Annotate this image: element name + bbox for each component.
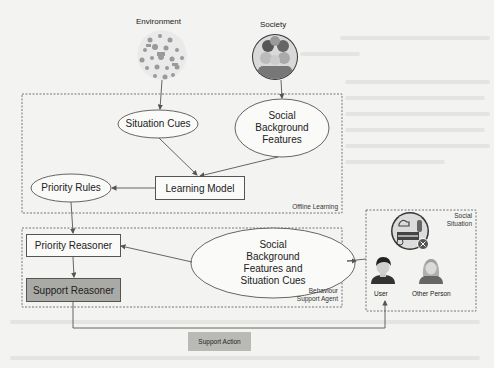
edge-social-background-to-learning-model — [200, 157, 278, 176]
behaviour-support-agent-caption: Behaviour Support Agent — [270, 287, 338, 303]
social-background-line2: Background — [255, 122, 308, 134]
social-features-line4: Situation Cues — [240, 275, 305, 287]
social-features-line2: Background — [246, 251, 299, 263]
social-features-and-cues-label: Social Background Features and Situation… — [205, 236, 341, 290]
edge-social-features-to-priority-reasoner — [121, 246, 192, 262]
edge-situation-cues-to-learning-model — [159, 138, 197, 175]
other-person-label: Other Person — [412, 290, 451, 297]
edge-priority-reasoner-to-support-reasoner — [73, 257, 74, 277]
society-label: Society — [260, 20, 286, 29]
behaviour-caption-line1: Behaviour — [270, 287, 338, 295]
support-action-node: Support Action — [188, 332, 251, 351]
social-features-line3: Features and — [244, 263, 303, 275]
offline-learning-caption: Offline Learning — [270, 203, 338, 211]
user-avatar-icon — [371, 257, 395, 284]
priority-reasoner-label: Priority Reasoner — [35, 240, 112, 251]
priority-reasoner-node: Priority Reasoner — [26, 234, 121, 257]
social-background-features-label: Social Background Features — [235, 108, 329, 148]
priority-rules-label: Priority Rules — [31, 180, 111, 196]
social-situation-line1: Social — [420, 212, 472, 220]
social-background-line1: Social — [268, 110, 295, 122]
behaviour-caption-line2: Support Agent — [270, 295, 338, 303]
social-features-line1: Social — [259, 239, 286, 251]
support-reasoner-label: Support Reasoner — [33, 285, 114, 296]
social-situation-caption: Social Situation — [420, 212, 472, 228]
user-label: User — [374, 290, 388, 297]
social-background-line3: Features — [262, 134, 301, 146]
edge-support-reasoner-to-user — [73, 301, 385, 328]
edge-environment-to-situation-cues — [160, 80, 162, 109]
environment-label: Environment — [136, 17, 181, 26]
social-situation-line2: Situation — [420, 220, 472, 228]
support-reasoner-node: Support Reasoner — [26, 278, 121, 302]
learning-model-node: Learning Model — [155, 176, 245, 200]
environment-collage-icon — [137, 30, 187, 80]
situation-cues-label: Situation Cues — [118, 116, 198, 132]
learning-model-label: Learning Model — [166, 183, 235, 194]
edge-society-to-social-background — [281, 80, 282, 98]
other-person-avatar-icon — [419, 259, 443, 284]
support-action-label: Support Action — [198, 338, 240, 345]
group-of-people-icon — [250, 34, 300, 80]
